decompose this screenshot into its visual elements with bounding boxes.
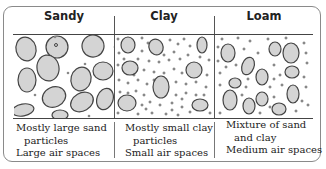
sandy-caption: Mostly large sand particles Large air sp…	[16, 122, 107, 160]
clay-caption: Mostly small clay particles Small air sp…	[125, 122, 213, 160]
column-divider	[214, 16, 215, 35]
caption-line: Large air spaces	[16, 147, 107, 160]
caption-line: particles	[16, 135, 107, 148]
caption-line: Mostly large sand	[16, 122, 107, 135]
caption-line: particles	[125, 135, 213, 148]
column-divider	[214, 122, 215, 158]
caption-line: and clay	[226, 132, 322, 145]
column-divider	[114, 16, 115, 35]
column-divider	[114, 122, 115, 158]
header-loam: Loam	[214, 9, 314, 23]
clay-soil-diagram	[114, 35, 214, 118]
caption-line: Medium air spaces	[226, 144, 322, 157]
caption-line: Mixture of sand	[226, 119, 322, 132]
caption-line: Small air spaces	[125, 147, 213, 160]
caption-line: Mostly small clay	[125, 122, 213, 135]
header-clay: Clay	[114, 9, 214, 23]
loam-soil-diagram	[214, 35, 314, 118]
header-sandy: Sandy	[14, 9, 114, 23]
loam-caption: Mixture of sand and clay Medium air spac…	[226, 119, 322, 157]
sandy-soil-diagram	[14, 35, 114, 118]
